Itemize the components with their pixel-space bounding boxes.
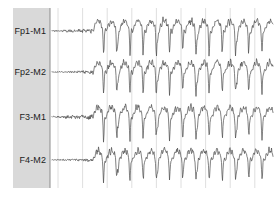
channel-label-f4-m2[interactable]: F4-M2 (19, 155, 46, 165)
eeg-chart-canvas: Fp1-M1Fp2-M2F3-M1F4-M2 (0, 0, 278, 199)
channel-label-fp1-m1[interactable]: Fp1-M1 (14, 26, 46, 36)
eeg-viewer: Fp1-M1Fp2-M2F3-M1F4-M2 (0, 0, 278, 199)
channel-label-fp2-m2[interactable]: Fp2-M2 (14, 67, 46, 77)
channel-label-f3-m1[interactable]: F3-M1 (19, 112, 46, 122)
